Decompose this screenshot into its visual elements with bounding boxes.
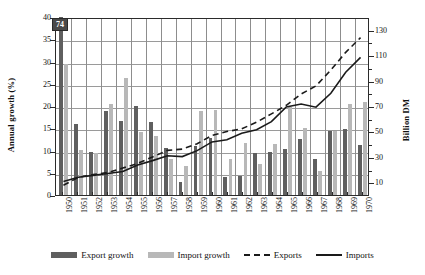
x-axis-tick-label: 1965	[291, 197, 299, 213]
x-axis-tick-label: 1954	[126, 197, 134, 213]
x-axis-tick-mark	[107, 192, 108, 196]
chart-container: Annual growth (%) Billion DM 05101520253…	[0, 0, 425, 275]
x-axis-tick-mark	[197, 192, 198, 196]
x-axis-tick-mark	[272, 192, 273, 196]
x-axis-tick-mark	[362, 192, 363, 196]
x-axis-labels: 1950195119521953195419551956195719581959…	[55, 197, 369, 239]
x-axis-tick-label: 1969	[351, 197, 359, 213]
x-axis-tick-mark	[122, 192, 123, 196]
x-axis-tick-mark	[257, 192, 258, 196]
x-axis-tick-label: 1960	[216, 197, 224, 213]
y-axis-right-tick-label: 30	[375, 154, 401, 162]
y-axis-left-tick-label: 30	[27, 59, 51, 67]
x-axis-tick-mark	[242, 192, 243, 196]
y-axis-left-tick-label: 15	[27, 125, 51, 133]
legend-swatch-exports	[244, 254, 270, 256]
x-axis-tick-mark	[137, 192, 138, 196]
y-axis-left-tick-label: 0	[27, 192, 51, 200]
x-axis-tick-label: 1964	[276, 197, 284, 213]
x-axis-tick-mark	[62, 192, 63, 196]
x-axis-tick-mark	[317, 192, 318, 196]
legend-item-imports: Imports	[316, 250, 374, 260]
x-axis-tick-label: 1966	[306, 197, 314, 213]
x-axis-tick-label: 1951	[81, 197, 89, 213]
x-axis-tick-mark	[227, 192, 228, 196]
y-axis-right-tick-label: 10	[375, 179, 401, 187]
y-axis-left-tick-label: 40	[27, 14, 51, 22]
x-axis-tick-label: 1970	[366, 197, 374, 213]
y-axis-right-tick-label: 110	[375, 52, 401, 60]
y-axis-right-tick-label: 70	[375, 103, 401, 111]
x-axis-tick-label: 1950	[66, 197, 74, 213]
y-axis-left-tick-label: 5	[27, 170, 51, 178]
x-axis-tick-label: 1967	[321, 197, 329, 213]
x-axis-tick-label: 1959	[201, 197, 209, 213]
x-axis-tick-mark	[167, 192, 168, 196]
x-axis-tick-mark	[92, 192, 93, 196]
legend-item-import-growth: Import growth	[148, 250, 230, 260]
x-axis-tick-label: 1955	[141, 197, 149, 213]
x-axis-tick-mark	[152, 192, 153, 196]
x-axis-tick-label: 1961	[231, 197, 239, 213]
x-axis-tick-label: 1962	[246, 197, 254, 213]
legend-swatch-imports	[316, 254, 342, 256]
y-axis-right-title: Billion DM	[401, 85, 411, 155]
y-axis-left-title: Annual growth (%)	[6, 71, 16, 159]
x-axis-tick-label: 1958	[186, 197, 194, 213]
plot-area: 74	[55, 18, 369, 196]
x-axis-tick-mark	[287, 192, 288, 196]
x-axis-tick-label: 1952	[96, 197, 104, 213]
legend-item-export-growth: Export growth	[51, 250, 133, 260]
x-axis-tick-label: 1963	[261, 197, 269, 213]
y-axis-right-tick-label: 90	[375, 78, 401, 86]
x-axis-tick-label: 1953	[111, 197, 119, 213]
y-axis-left-tick-label: 35	[27, 36, 51, 44]
legend-swatch-import-growth	[148, 252, 174, 258]
x-axis-tick-mark	[77, 192, 78, 196]
exports-line	[63, 38, 360, 186]
x-axis-tick-label: 1957	[171, 197, 179, 213]
data-label-callout: 74	[52, 18, 68, 31]
y-axis-left-tick-label: 10	[27, 148, 51, 156]
y-axis-left-tick-label: 20	[27, 103, 51, 111]
x-axis-tick-mark	[347, 192, 348, 196]
imports-line	[63, 57, 360, 181]
line-series-group	[56, 19, 368, 196]
legend-label-exports: Exports	[274, 250, 302, 260]
x-axis-tick-label: 1956	[156, 197, 164, 213]
legend-swatch-export-growth	[51, 252, 77, 258]
x-axis-tick-mark	[182, 192, 183, 196]
x-axis-tick-label: 1968	[336, 197, 344, 213]
x-axis-tick-mark	[302, 192, 303, 196]
y-axis-right-tick-label: 130	[375, 27, 401, 35]
legend-label-import-growth: Import growth	[178, 250, 230, 260]
legend-label-export-growth: Export growth	[81, 250, 133, 260]
x-axis-tick-mark	[212, 192, 213, 196]
x-axis-tick-mark	[332, 192, 333, 196]
y-axis-left-tick-label: 25	[27, 81, 51, 89]
y-axis-right-tick-label: 50	[375, 128, 401, 136]
legend-label-imports: Imports	[346, 250, 374, 260]
legend-item-exports: Exports	[244, 250, 302, 260]
chart-legend: Export growth Import growth Exports Impo…	[0, 250, 425, 260]
